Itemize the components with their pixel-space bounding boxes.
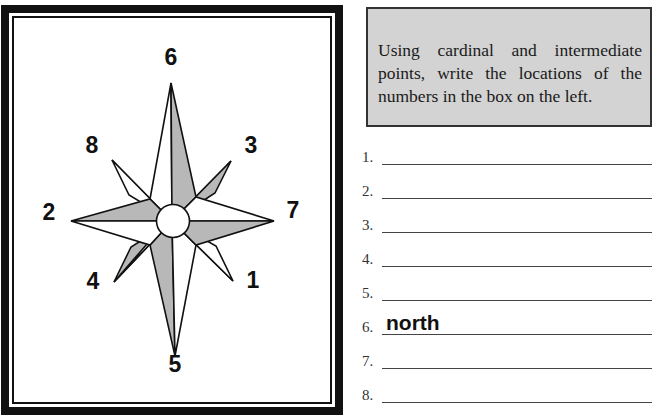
answer-field-4[interactable] <box>382 243 652 267</box>
answer-row-2: 2. <box>360 175 652 199</box>
compass-label-southeast: 1 <box>247 269 260 292</box>
answer-field-5[interactable] <box>382 277 652 301</box>
answer-field-2[interactable] <box>382 175 652 199</box>
answer-value: north <box>386 312 440 333</box>
answer-field-3[interactable] <box>382 209 652 233</box>
answer-number: 3. <box>362 218 373 233</box>
answer-field-6[interactable]: north <box>382 311 652 335</box>
compass-label-northwest: 8 <box>86 134 99 157</box>
answer-row-6: 6. north <box>360 311 652 335</box>
compass-label-east: 7 <box>287 199 300 222</box>
answer-field-8[interactable] <box>382 379 652 403</box>
compass-label-north: 6 <box>165 46 178 69</box>
compass-label-south: 5 <box>169 353 182 376</box>
answer-number: 7. <box>362 354 373 369</box>
answer-number: 6. <box>362 320 373 335</box>
answer-row-5: 5. <box>360 277 652 301</box>
answer-row-7: 7. <box>360 345 652 369</box>
answer-row-4: 4. <box>360 243 652 267</box>
answer-field-7[interactable] <box>382 345 652 369</box>
answer-number: 5. <box>362 286 373 301</box>
answer-row-8: 8. <box>360 379 652 403</box>
answer-row-3: 3. <box>360 209 652 233</box>
compass-label-west: 2 <box>43 201 56 224</box>
answer-row-1: 1. <box>360 141 652 165</box>
answer-list: 1. 2. 3. 4. 5. 6. north 7. 8. <box>360 0 655 420</box>
answer-field-1[interactable] <box>382 141 652 165</box>
answer-number: 1. <box>362 150 373 165</box>
answer-number: 4. <box>362 252 373 267</box>
answer-number: 2. <box>362 184 373 199</box>
compass-label-southwest: 4 <box>87 270 100 293</box>
compass-label-northeast: 3 <box>245 134 258 157</box>
answer-number: 8. <box>362 388 373 403</box>
